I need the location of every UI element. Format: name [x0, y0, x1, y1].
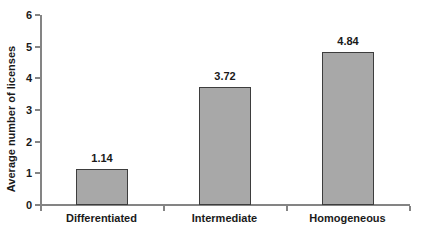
y-axis-tick — [35, 14, 40, 16]
y-axis-tick — [35, 172, 40, 174]
x-axis-tick — [163, 206, 165, 211]
bar-value-label: 4.84 — [308, 36, 388, 47]
y-axis-tick-label: 1 — [16, 168, 32, 179]
y-axis-tick — [35, 77, 40, 79]
x-axis-category-label: Differentiated — [40, 213, 163, 224]
y-axis-line — [40, 15, 42, 206]
x-axis-tick — [409, 206, 411, 211]
x-axis-category-label: Homogeneous — [286, 213, 409, 224]
y-axis-tick-label: 5 — [16, 42, 32, 53]
bar-value-label: 1.14 — [62, 153, 142, 164]
bar — [76, 169, 128, 205]
x-axis-tick — [40, 206, 42, 211]
y-axis-tick-label: 6 — [16, 10, 32, 21]
y-axis-tick-label: 3 — [16, 105, 32, 116]
y-axis-tick-label: 2 — [16, 137, 32, 148]
x-axis-category-label: Intermediate — [163, 213, 286, 224]
bar — [322, 52, 374, 205]
bar — [199, 87, 251, 205]
bar-chart: Average number of licenses 0123456 1.14D… — [0, 0, 421, 238]
x-axis-tick — [286, 206, 288, 211]
y-axis-tick-label: 4 — [16, 73, 32, 84]
y-axis-tick — [35, 109, 40, 111]
y-axis-tick — [35, 46, 40, 48]
y-axis-tick — [35, 141, 40, 143]
bar-value-label: 3.72 — [185, 71, 265, 82]
y-axis-tick-label: 0 — [16, 200, 32, 211]
